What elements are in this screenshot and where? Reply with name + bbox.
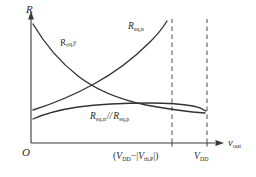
curve-req-n bbox=[33, 21, 167, 110]
x-tick-label-vth: (VDD−|Vth,P|) bbox=[113, 152, 159, 162]
curve-label-req-parallel: Req,n//Req,p bbox=[90, 112, 129, 122]
x-axis-label: vout bbox=[228, 138, 241, 149]
x-tick-label-vdd: VDD bbox=[194, 152, 208, 162]
origin-label: O bbox=[22, 147, 30, 158]
x-axis-arrowhead bbox=[216, 140, 225, 146]
resistance-vs-vout-figure: R O vout Req,P Req,n Req,n//Req,p (VDD−|… bbox=[0, 0, 256, 177]
curve-label-req-n: Req,n bbox=[128, 22, 144, 32]
y-axis-label: R bbox=[26, 4, 33, 15]
